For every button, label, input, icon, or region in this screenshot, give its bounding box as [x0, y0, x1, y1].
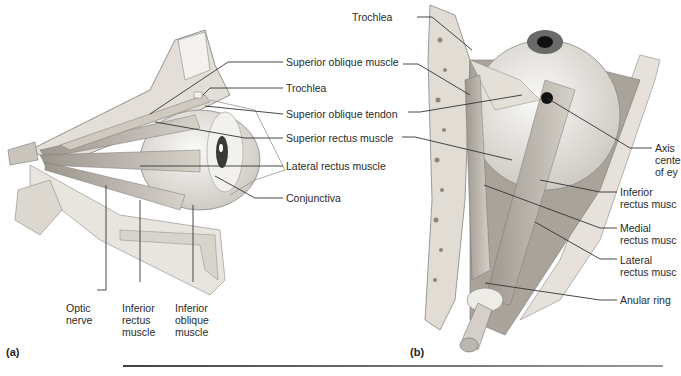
label-a-optic-nerve: Optic nerve [66, 302, 92, 326]
label-a-superior-oblique-muscle: Superior oblique muscle [286, 56, 399, 68]
panel-a-drawing [8, 30, 285, 295]
label-b-anular-ring: Anular ring [620, 294, 671, 306]
label-b-medial-rectus-muscle: Medial rectus musc [620, 222, 677, 246]
label-a-conjunctiva: Conjunctiva [286, 192, 341, 204]
bottom-divider [123, 365, 663, 367]
label-b-inferior-rectus-muscle: Inferior rectus musc [620, 186, 677, 210]
panel-a-tag: (a) [6, 346, 19, 358]
label-a-superior-oblique-tendon: Superior oblique tendon [286, 108, 398, 120]
panel-b-tag: (b) [410, 346, 424, 358]
label-b-trochlea: Trochlea [352, 11, 392, 23]
label-a-trochlea: Trochlea [286, 82, 326, 94]
label-a-superior-rectus-muscle: Superior rectus muscle [286, 132, 393, 144]
label-b-lateral-rectus-muscle: Lateral rectus musc [620, 254, 677, 278]
label-a-inferior-oblique-muscle: Inferior oblique muscle [175, 302, 209, 338]
label-b-axis-center-of-eye: Axis cente of ey [655, 142, 681, 178]
label-a-inferior-rectus-muscle: Inferior rectus muscle [122, 302, 155, 338]
label-a-lateral-rectus-muscle: Lateral rectus muscle [286, 160, 386, 172]
